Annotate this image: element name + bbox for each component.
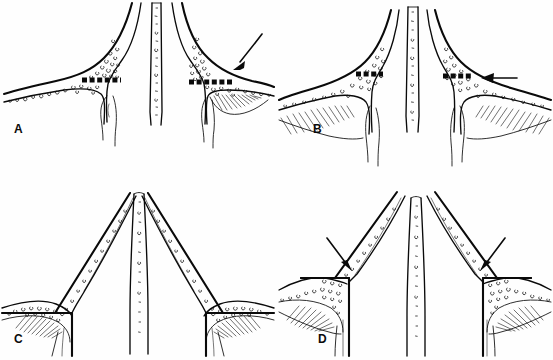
hatching-right-c	[214, 316, 260, 338]
stipple-turbinate-left-c	[8, 307, 64, 322]
panel-b-drawing	[277, 0, 553, 180]
panel-c	[0, 180, 276, 360]
arrow-d-left	[327, 238, 352, 271]
stipple-left-a	[9, 40, 120, 102]
panel-c-artwork	[2, 193, 274, 357]
panel-a	[0, 0, 276, 180]
septum-stipple-c	[138, 202, 141, 332]
septum-stipple-a	[155, 8, 158, 115]
figure-container: A	[0, 0, 553, 360]
hatching-right-a	[214, 95, 261, 110]
stipple-strut-left-c	[65, 210, 127, 310]
septum-stipple-b	[411, 12, 414, 120]
panel-a-artwork	[4, 3, 274, 148]
panel-label-d: D	[318, 333, 327, 345]
arrow-a-right	[233, 34, 262, 70]
panel-label-b: B	[313, 123, 322, 135]
panel-b	[277, 0, 553, 180]
stipple-strut-right-c	[152, 210, 214, 310]
arrow-b-right	[481, 73, 517, 83]
panel-b-artwork	[279, 7, 551, 166]
hatching-right-b	[476, 106, 549, 134]
stipple-strut-left-d	[345, 208, 396, 276]
hatching-left-d	[287, 306, 334, 331]
arrow-d-right	[480, 238, 505, 271]
panel-a-drawing	[0, 0, 276, 180]
hatching-right-d	[496, 306, 543, 331]
panel-label-c: C	[14, 333, 23, 345]
stipple-right-a	[190, 38, 271, 96]
panel-label-a: A	[14, 123, 23, 135]
panel-c-drawing	[0, 180, 276, 360]
septum-stipple-d	[415, 206, 418, 336]
stipple-strut-right-d	[437, 208, 488, 276]
